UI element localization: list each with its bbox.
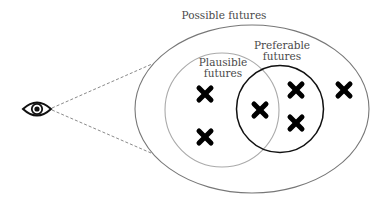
x-mark-icon: [290, 117, 302, 129]
x-mark-icon: [199, 131, 211, 143]
future-marks: [199, 84, 350, 143]
sight-lines: [52, 64, 152, 153]
x-mark-icon: [290, 84, 302, 96]
possible-futures-ellipse: [135, 25, 369, 193]
x-mark-icon: [199, 88, 211, 100]
futures-cone-diagram: Possible futures Plausible futures Prefe…: [0, 0, 386, 203]
plausible-futures-label-line2: futures: [204, 67, 242, 79]
eye-icon: [23, 103, 51, 116]
sight-line-upper: [52, 64, 152, 108]
possible-futures-label: Possible futures: [182, 9, 267, 21]
preferable-futures-circle: [237, 66, 324, 153]
preferable-futures-label-line2: futures: [263, 50, 301, 62]
sight-line-lower: [52, 110, 151, 153]
x-mark-icon: [338, 84, 350, 96]
x-mark-icon: [254, 104, 266, 116]
